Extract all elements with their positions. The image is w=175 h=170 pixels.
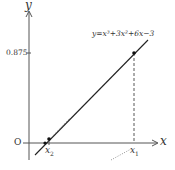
- function-graph: [0, 0, 175, 170]
- equation-label: y=x³+3x²+6x−3: [92, 29, 154, 38]
- curve-line: [35, 40, 148, 155]
- x2-sub: 2: [50, 150, 54, 157]
- y-tick-label: 0.875: [6, 48, 27, 57]
- point-x1: [132, 51, 136, 55]
- dotted-line-upper: [49, 118, 70, 140]
- dotted-line-lower: [111, 149, 131, 160]
- x2-label: x2: [45, 145, 54, 157]
- x1-label: x1: [130, 145, 139, 157]
- point-x2-a: [47, 137, 51, 141]
- y-axis-label: y: [25, 0, 32, 12]
- x1-sub: 1: [135, 150, 139, 157]
- x-axis-label: x: [160, 134, 167, 148]
- origin-label: O: [14, 137, 21, 147]
